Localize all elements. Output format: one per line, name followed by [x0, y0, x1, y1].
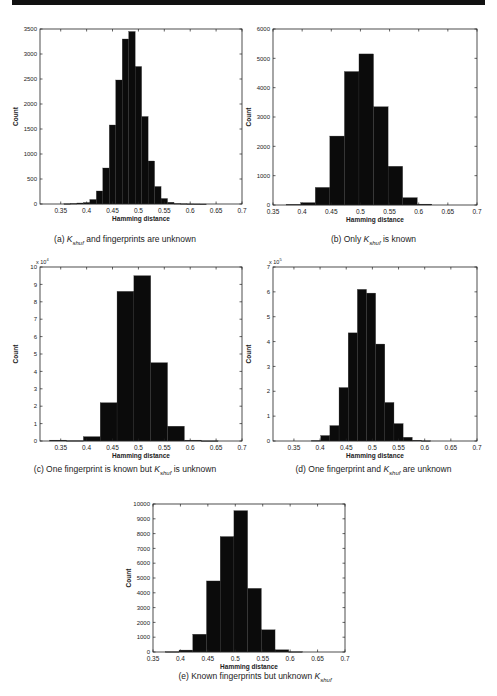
- histogram-bar: [193, 634, 207, 652]
- y-tick-label: 8000: [137, 531, 151, 537]
- histogram-bar: [234, 511, 248, 652]
- y-tick-label: 5000: [137, 575, 151, 581]
- x-tick-label: 0.5: [231, 655, 240, 662]
- y-tick-label: 9000: [137, 516, 151, 522]
- y-tick-label: 3000: [137, 605, 151, 611]
- y-tick-label: 10000: [133, 501, 150, 507]
- histogram-bar: [248, 588, 262, 652]
- bars: [165, 511, 302, 653]
- x-axis-label: Hamming distance: [220, 663, 278, 671]
- histogram-bar: [261, 630, 275, 652]
- x-tick-label: 0.45: [202, 655, 215, 662]
- x-tick-label: 0.7: [340, 655, 349, 662]
- y-axis-label: Count: [125, 568, 132, 588]
- caption-e: (e) Known fingerprints but unknown Kshuf: [130, 671, 380, 683]
- y-tick-label: 7000: [137, 546, 151, 552]
- histogram-e: 0.350.40.450.50.550.60.650.7010002000300…: [0, 0, 497, 696]
- y-tick-label: 2000: [137, 620, 151, 626]
- x-tick-label: 0.55: [256, 655, 269, 662]
- x-tick-label: 0.65: [311, 655, 324, 662]
- histogram-bar: [220, 537, 234, 652]
- y-tick-label: 6000: [137, 560, 151, 566]
- histogram-bar: [206, 581, 220, 652]
- x-tick-label: 0.6: [286, 655, 295, 662]
- y-tick-label: 4000: [137, 590, 151, 596]
- chart-panel-e: 0.350.40.450.50.550.60.650.7010002000300…: [0, 0, 497, 696]
- x-tick-label: 0.4: [176, 655, 185, 662]
- y-tick-label: 1000: [137, 634, 151, 640]
- x-tick-label: 0.35: [147, 655, 160, 662]
